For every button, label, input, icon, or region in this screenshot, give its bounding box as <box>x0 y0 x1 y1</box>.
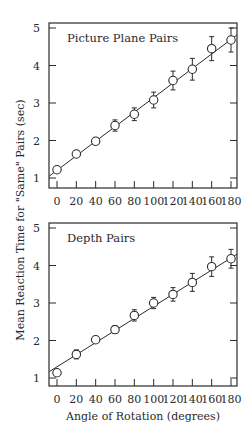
data-point <box>91 336 99 344</box>
data-point <box>111 121 119 129</box>
data-point <box>72 350 80 358</box>
x-tick-label: 80 <box>127 393 141 406</box>
data-point <box>207 44 215 52</box>
data-point <box>227 36 235 44</box>
data-point <box>130 110 138 118</box>
y-tick-label: 5 <box>33 222 40 235</box>
data-point <box>130 311 138 319</box>
x-tick-label: 0 <box>54 393 61 406</box>
x-tick-label: 20 <box>69 393 83 406</box>
y-tick-label: 2 <box>33 135 40 148</box>
data-point <box>72 150 80 158</box>
picture-plane-panel: 12345020406080100120140160180Picture Pla… <box>33 22 242 208</box>
x-axis-label: Angle of Rotation (degrees) <box>65 410 220 423</box>
panel-title-depth: Depth Pairs <box>67 231 135 245</box>
data-point <box>149 96 157 104</box>
y-tick-label: 3 <box>33 297 40 310</box>
x-tick-label: 40 <box>89 195 103 208</box>
x-tick-label: 20 <box>69 195 83 208</box>
data-point <box>149 299 157 307</box>
panel-title-picture-plane: Picture Plane Pairs <box>67 31 178 45</box>
y-tick-label: 1 <box>33 372 40 385</box>
data-point <box>53 369 61 377</box>
x-tick-label: 100 <box>143 393 164 406</box>
x-tick-label: 120 <box>163 393 184 406</box>
data-point <box>53 166 61 174</box>
x-tick-label: 160 <box>201 195 222 208</box>
depth-panel: 12345020406080100120140160180Depth Pairs <box>33 222 242 406</box>
x-tick-label: 80 <box>127 195 141 208</box>
x-tick-label: 140 <box>182 393 203 406</box>
x-tick-label: 0 <box>54 195 61 208</box>
data-point <box>169 290 177 298</box>
y-tick-label: 5 <box>33 22 40 35</box>
y-axis-label: Mean Reaction Time for "Same" Pairs (sec… <box>14 99 27 340</box>
data-point <box>227 255 235 263</box>
data-point <box>169 76 177 84</box>
plot-frame <box>49 223 237 386</box>
y-tick-label: 3 <box>33 97 40 110</box>
x-tick-label: 180 <box>221 393 242 406</box>
x-tick-label: 40 <box>89 393 103 406</box>
x-tick-label: 60 <box>108 393 122 406</box>
x-tick-label: 160 <box>201 393 222 406</box>
data-point <box>111 325 119 333</box>
data-point <box>91 137 99 145</box>
y-tick-label: 4 <box>33 260 40 273</box>
x-tick-label: 60 <box>108 195 122 208</box>
x-tick-label: 100 <box>143 195 164 208</box>
chart-figure: 12345020406080100120140160180Picture Pla… <box>0 0 252 439</box>
data-point <box>207 262 215 270</box>
data-point <box>188 65 196 73</box>
y-tick-label: 1 <box>33 172 40 185</box>
data-point <box>188 278 196 286</box>
x-tick-label: 180 <box>221 195 242 208</box>
x-tick-label: 140 <box>182 195 203 208</box>
x-tick-label: 120 <box>163 195 184 208</box>
y-tick-label: 4 <box>33 60 40 73</box>
y-tick-label: 2 <box>33 335 40 348</box>
